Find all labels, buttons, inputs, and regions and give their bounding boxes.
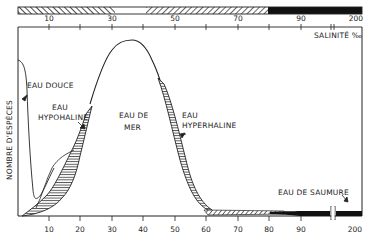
- salinity-species-chart: 10 30 50 70 90 200 10 20 30 40 50 60 70 …: [0, 0, 370, 238]
- label-eau-de-mer-1: EAU DE: [119, 111, 149, 120]
- bottom-tick-90: 90: [296, 225, 306, 234]
- arrow-eau-hyperhaline-icon: [180, 133, 186, 138]
- label-eau-hypohaline-1: EAU: [52, 103, 68, 112]
- bottom-tick-200: 200: [348, 225, 363, 234]
- bottom-axis: 10 20 30 40 50 60 70 80 90 200: [18, 216, 362, 234]
- top-tick-90: 90: [296, 14, 306, 23]
- bar-segment-hypohaline: [18, 7, 115, 14]
- top-axis: 10 30 50 70 90 200: [18, 14, 363, 30]
- brine-band: [270, 211, 330, 216]
- bar-segment-brine: [268, 7, 362, 14]
- top-tick-50: 50: [170, 14, 180, 23]
- bottom-tick-40: 40: [138, 225, 148, 234]
- x-axis-label: SALINITÉ ‰: [314, 31, 362, 40]
- top-tick-70: 70: [233, 14, 243, 23]
- hyperhaline-band: [158, 78, 212, 210]
- label-eau-hyperhaline-2: HYPERHALINE: [182, 121, 236, 130]
- salinity-bar: [18, 7, 362, 14]
- bottom-tick-60: 60: [201, 225, 211, 234]
- bar-segment-hyperhaline: [146, 7, 268, 14]
- label-eau-hypohaline-2: HYPOHALINE: [38, 113, 88, 122]
- label-eau-de-saumure: EAU DE SAUMURE: [278, 188, 349, 197]
- top-tick-200: 200: [349, 14, 364, 23]
- bottom-tick-70: 70: [233, 225, 243, 234]
- axis-break: [331, 206, 335, 220]
- bar-segment-marine: [115, 7, 146, 14]
- y-axis-label: NOMBRE D'ESPÈCES: [5, 100, 14, 180]
- bottom-tick-30: 30: [107, 225, 117, 234]
- eau-de-mer-curve: [90, 40, 160, 104]
- bottom-tick-80: 80: [264, 225, 274, 234]
- arrow-eau-douce-icon: [22, 95, 27, 101]
- bottom-tick-50: 50: [170, 225, 180, 234]
- label-eau-douce: EAU DOUCE: [27, 81, 74, 90]
- top-tick-10: 10: [44, 14, 54, 23]
- bottom-tick-20: 20: [75, 225, 85, 234]
- label-eau-de-mer-2: MER: [124, 123, 141, 132]
- bottom-tick-10: 10: [44, 225, 54, 234]
- top-tick-30: 30: [107, 14, 117, 23]
- label-eau-hyperhaline-1: EAU: [182, 111, 198, 120]
